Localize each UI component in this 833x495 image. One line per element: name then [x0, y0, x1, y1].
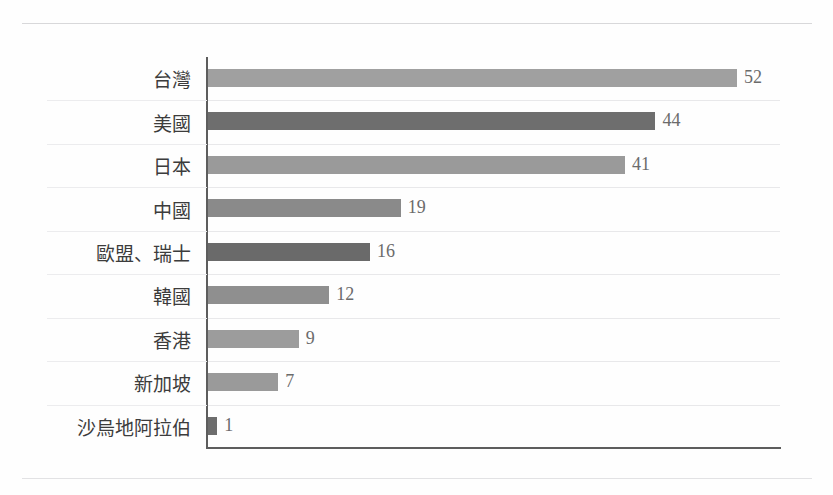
- bar: [207, 286, 329, 304]
- gridline-label-extension: [47, 405, 207, 406]
- bar-row: 12: [207, 274, 780, 317]
- category-label: 日本: [47, 144, 199, 187]
- category-axis-labels: 台灣美國日本中國歐盟、瑞士韓國香港新加坡沙烏地阿拉伯: [47, 57, 199, 448]
- y-axis-line: [206, 57, 208, 449]
- bar-value-label: 19: [408, 197, 426, 218]
- category-label: 新加坡: [47, 361, 199, 404]
- category-label: 韓國: [47, 274, 199, 317]
- bar-value-label: 1: [224, 415, 233, 436]
- bar-row: 52: [207, 57, 780, 100]
- bar: [207, 112, 655, 130]
- bar: [207, 243, 370, 261]
- bar-row: 44: [207, 100, 780, 143]
- bar: [207, 373, 278, 391]
- bar-row: 19: [207, 187, 780, 230]
- bar-row: 1: [207, 405, 780, 448]
- plot-area: 524441191612971: [207, 57, 780, 448]
- bar-value-label: 9: [306, 328, 315, 349]
- bar: [207, 156, 625, 174]
- bar-value-label: 44: [662, 110, 680, 131]
- gridline-label-extension: [47, 361, 207, 362]
- gridline-label-extension: [47, 187, 207, 188]
- bar-value-label: 52: [744, 67, 762, 88]
- gridline-label-extension: [47, 100, 207, 101]
- bar-value-label: 7: [285, 371, 294, 392]
- bar-row: 9: [207, 318, 780, 361]
- bar: [207, 199, 401, 217]
- category-label: 沙烏地阿拉伯: [47, 405, 199, 448]
- bar-value-label: 12: [336, 284, 354, 305]
- gridline-label-extension: [47, 144, 207, 145]
- bar: [207, 330, 299, 348]
- gridline-label-extension: [47, 318, 207, 319]
- gridline-label-extension: [47, 231, 207, 232]
- category-label: 香港: [47, 318, 199, 361]
- bar-row: 16: [207, 231, 780, 274]
- bar-value-label: 41: [632, 154, 650, 175]
- bar: [207, 417, 217, 435]
- category-label: 中國: [47, 187, 199, 230]
- gridline-label-extension: [47, 274, 207, 275]
- category-label: 美國: [47, 100, 199, 143]
- horizontal-bar-chart: 台灣美國日本中國歐盟、瑞士韓國香港新加坡沙烏地阿拉伯 5244411916129…: [0, 0, 833, 495]
- chart-page: 台灣美國日本中國歐盟、瑞士韓國香港新加坡沙烏地阿拉伯 5244411916129…: [0, 0, 833, 495]
- bar-row: 7: [207, 361, 780, 404]
- category-label: 歐盟、瑞士: [47, 231, 199, 274]
- bar-value-label: 16: [377, 241, 395, 262]
- bar-row: 41: [207, 144, 780, 187]
- x-axis-line: [206, 447, 781, 449]
- bar: [207, 69, 737, 87]
- category-label: 台灣: [47, 57, 199, 100]
